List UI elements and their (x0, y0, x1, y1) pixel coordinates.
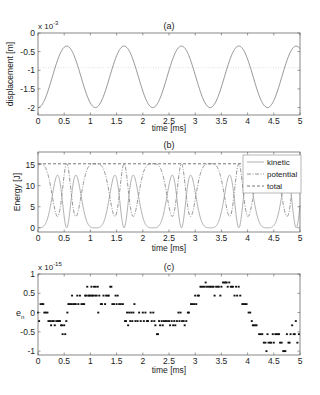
error-point (236, 295, 238, 297)
x-tick-label: 4.5 (268, 116, 280, 126)
error-point (151, 320, 153, 322)
panel-a-displacement: (a) x 10-3 displacement [m] time [ms] 00… (5, 20, 303, 133)
panel-b-ylabel: Energy [J] (12, 173, 22, 211)
error-point (176, 320, 178, 322)
panel-c-multiplier: x 10-15 (38, 261, 62, 272)
error-point (103, 295, 105, 297)
error-point (157, 333, 159, 335)
panel-c-ylabel: en (16, 308, 24, 320)
error-point (79, 295, 81, 297)
error-point (251, 320, 253, 322)
x-tick-label: 3.5 (215, 116, 227, 126)
error-point (177, 312, 179, 314)
error-point (291, 324, 293, 326)
error-point (172, 324, 174, 326)
panel-a-title: (a) (164, 21, 175, 31)
error-point (256, 324, 258, 326)
panel-b-xlabel: time [ms] (152, 243, 186, 253)
x-tick-label: 3.5 (215, 356, 227, 366)
error-point (116, 303, 118, 305)
panel-a-axes: 00.511.522.533.544.550-0.5-1-1.5-2 (20, 28, 302, 126)
panel-b-title: (b) (164, 140, 175, 150)
error-point (227, 286, 229, 288)
y-tick-label: 0 (30, 28, 35, 38)
error-point (129, 320, 131, 322)
error-point (166, 320, 168, 322)
x-tick-label: 2 (140, 233, 145, 243)
error-point (134, 320, 136, 322)
x-tick-label: 5 (298, 356, 303, 366)
error-point (219, 295, 221, 297)
error-point (171, 320, 173, 322)
y-tick-label: -0.5 (20, 327, 35, 337)
error-point (169, 324, 171, 326)
error-point (42, 303, 44, 305)
error-point (183, 320, 185, 322)
x-tick-label: 0 (36, 116, 41, 126)
panel-a-plot-area (38, 46, 300, 108)
error-point (184, 324, 186, 326)
x-tick-label: 2.5 (163, 233, 175, 243)
x-tick-label: 3 (193, 233, 198, 243)
error-point (117, 295, 119, 297)
panel-a-multiplier: x 10-3 (38, 20, 59, 31)
error-point (50, 324, 52, 326)
x-tick-label: 4 (245, 356, 250, 366)
error-point (235, 286, 237, 288)
error-point (132, 312, 134, 314)
error-point (120, 303, 122, 305)
y-tick-label: 15 (26, 160, 36, 170)
error-point (98, 295, 100, 297)
error-point (154, 324, 156, 326)
error-point (125, 320, 127, 322)
error-point (92, 295, 94, 297)
axes-frame (38, 33, 300, 115)
x-tick-label: 0.5 (58, 116, 70, 126)
error-point (162, 324, 164, 326)
error-point (97, 286, 99, 288)
x-tick-label: 1.5 (111, 233, 123, 243)
error-point (264, 342, 266, 344)
x-tick-label: 1.5 (111, 116, 123, 126)
error-point (228, 282, 230, 284)
error-point (284, 350, 286, 352)
error-point (86, 286, 88, 288)
x-tick-label: 3 (193, 356, 198, 366)
legend-potential-label: potential (267, 170, 297, 179)
error-point (104, 303, 106, 305)
axes-frame (38, 274, 300, 355)
error-point (138, 312, 140, 314)
error-point (286, 333, 288, 335)
panel-a-ylabel: displacement [m] (5, 42, 15, 106)
x-tick-label: 2 (140, 356, 145, 366)
x-tick-label: 1 (88, 356, 93, 366)
error-point (66, 312, 68, 314)
y-tick-label: -1 (27, 346, 35, 356)
error-point (61, 324, 63, 326)
error-point (226, 282, 228, 284)
x-tick-label: 1 (88, 116, 93, 126)
error-point (178, 320, 180, 322)
error-point (234, 295, 236, 297)
error-point (161, 320, 163, 322)
error-point (131, 320, 133, 322)
error-point (290, 333, 292, 335)
panel-b-legend: kinetic potential total (243, 155, 301, 193)
error-point (63, 324, 65, 326)
error-point (133, 303, 135, 305)
error-point (295, 320, 297, 322)
error-point (281, 342, 283, 344)
error-point (168, 320, 170, 322)
panel-c-plot-area (37, 282, 300, 352)
error-point (152, 312, 154, 314)
x-tick-label: 0.5 (58, 356, 70, 366)
error-point (249, 312, 251, 314)
x-tick-label: 1 (88, 233, 93, 243)
x-tick-label: 0.5 (58, 233, 70, 243)
y-tick-label: 0 (30, 223, 35, 233)
error-point (101, 303, 103, 305)
error-point (137, 320, 139, 322)
panel-c-xlabel: time [ms] (152, 365, 186, 375)
error-point (270, 342, 272, 344)
error-point (122, 303, 124, 305)
